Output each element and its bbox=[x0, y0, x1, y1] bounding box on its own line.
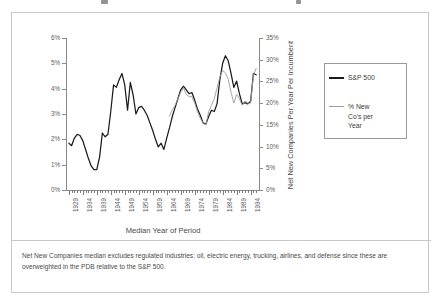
x-tick-minor bbox=[108, 190, 109, 193]
x-tick-minor bbox=[242, 190, 243, 193]
x-tick-minor bbox=[175, 190, 176, 193]
series-line bbox=[169, 68, 256, 124]
x-tick-minor bbox=[88, 190, 89, 193]
x-tick-minor bbox=[206, 190, 207, 193]
x-tick-minor bbox=[142, 190, 143, 193]
x-tick-minor bbox=[231, 190, 232, 193]
x-tick-major bbox=[69, 190, 70, 195]
x-tick-minor bbox=[245, 190, 246, 193]
x-tick-label: 1954 bbox=[142, 198, 149, 212]
y-tick-right bbox=[259, 60, 263, 61]
x-tick-minor bbox=[234, 190, 235, 193]
x-tick-label: 1989 bbox=[240, 198, 247, 212]
series-line bbox=[69, 56, 256, 170]
x-tick-minor bbox=[228, 190, 229, 193]
x-tick-minor bbox=[217, 190, 218, 193]
y-tick-right bbox=[259, 190, 263, 191]
x-tick-minor bbox=[203, 190, 204, 193]
legend-item-sp500[interactable]: S&P 500 bbox=[329, 73, 375, 83]
x-tick-minor bbox=[186, 190, 187, 193]
x-tick-minor bbox=[100, 190, 101, 193]
x-tick-label: 1929 bbox=[72, 198, 79, 212]
series-lines bbox=[66, 38, 259, 190]
x-tick-major bbox=[153, 190, 154, 195]
x-tick-minor bbox=[91, 190, 92, 193]
y-tick-label-left: 5% bbox=[41, 59, 60, 66]
x-tick-minor bbox=[133, 190, 134, 193]
x-tick-minor bbox=[102, 190, 103, 193]
x-tick-minor bbox=[80, 190, 81, 193]
x-tick-label: 1974 bbox=[198, 198, 205, 212]
x-tick-minor bbox=[197, 190, 198, 193]
x-tick-minor bbox=[150, 190, 151, 193]
x-tick-minor bbox=[211, 190, 212, 193]
legend[interactable]: S&P 500 % New Co's per Year bbox=[324, 63, 407, 139]
x-tick-major bbox=[209, 190, 210, 195]
x-tick-minor bbox=[161, 190, 162, 193]
x-tick-label: 1939 bbox=[100, 198, 107, 212]
x-tick-label: 1979 bbox=[212, 198, 219, 212]
x-tick-minor bbox=[156, 190, 157, 193]
x-tick-minor bbox=[116, 190, 117, 193]
page-artifact-right bbox=[296, 0, 301, 4]
y-tick-label-left: 0% bbox=[41, 186, 60, 193]
page-artifact-left bbox=[101, 0, 108, 4]
y-tick-right bbox=[259, 103, 263, 104]
x-tick-minor bbox=[86, 190, 87, 193]
x-tick-minor bbox=[200, 190, 201, 193]
legend-label-sp500: S&P 500 bbox=[348, 73, 375, 83]
x-tick-minor bbox=[77, 190, 78, 193]
y-tick-label-right: 35% bbox=[266, 34, 279, 41]
x-tick-minor bbox=[122, 190, 123, 193]
x-tick-minor bbox=[119, 190, 120, 193]
legend-item-new-cos[interactable]: % New Co's per Year bbox=[329, 102, 373, 131]
legend-label-new-cos: % New Co's per Year bbox=[348, 102, 373, 131]
x-axis-title: Median Year of Period bbox=[66, 226, 260, 235]
y-tick-label-right: 5% bbox=[266, 164, 275, 171]
x-tick-major bbox=[251, 190, 252, 195]
x-tick-minor bbox=[189, 190, 190, 193]
x-tick-minor bbox=[169, 190, 170, 193]
y-tick-label-left: 2% bbox=[41, 135, 60, 142]
x-tick-minor bbox=[74, 190, 75, 193]
x-tick-major bbox=[223, 190, 224, 195]
y-tick-label-left: 6% bbox=[41, 34, 60, 41]
y-tick-label-right: 0% bbox=[266, 186, 275, 193]
y-tick-right bbox=[259, 38, 263, 39]
x-tick-minor bbox=[158, 190, 159, 193]
x-tick-major bbox=[139, 190, 140, 195]
x-tick-minor bbox=[128, 190, 129, 193]
x-tick-label: 1944 bbox=[114, 198, 121, 212]
x-tick-minor bbox=[225, 190, 226, 193]
x-tick-label: 1949 bbox=[128, 198, 135, 212]
y-tick-label-left: 3% bbox=[41, 110, 60, 117]
x-tick-minor bbox=[178, 190, 179, 193]
x-tick-minor bbox=[147, 190, 148, 193]
x-tick-major bbox=[237, 190, 238, 195]
x-tick-major bbox=[111, 190, 112, 195]
x-tick-minor bbox=[72, 190, 73, 193]
y-tick-label-right: 20% bbox=[266, 99, 279, 106]
legend-swatch-line-icon bbox=[329, 77, 344, 79]
y-tick-label-right: 30% bbox=[266, 56, 279, 63]
y-tick-right bbox=[259, 81, 263, 82]
x-tick-minor bbox=[239, 190, 240, 193]
x-tick-label: 1969 bbox=[184, 198, 191, 212]
x-tick-minor bbox=[172, 190, 173, 193]
x-tick-minor bbox=[214, 190, 215, 193]
x-tick-minor bbox=[130, 190, 131, 193]
y-tick-label-right: 10% bbox=[266, 143, 279, 150]
x-tick-minor bbox=[253, 190, 254, 193]
y-axis-right-title: Net New Companies Per Year Per Incumbent bbox=[286, 40, 296, 190]
y-tick-right bbox=[259, 125, 263, 126]
x-tick-label: 1984 bbox=[226, 198, 233, 212]
y-tick-right bbox=[259, 168, 263, 169]
x-tick-minor bbox=[256, 190, 257, 193]
x-tick-label: 1994 bbox=[254, 198, 261, 212]
y-tick-label-right: 25% bbox=[266, 77, 279, 84]
x-tick-label: 1959 bbox=[156, 198, 163, 212]
y-tick-label-left: 1% bbox=[41, 161, 60, 168]
x-tick-major bbox=[195, 190, 196, 195]
x-tick-minor bbox=[164, 190, 165, 193]
y-tick-right bbox=[259, 147, 263, 148]
